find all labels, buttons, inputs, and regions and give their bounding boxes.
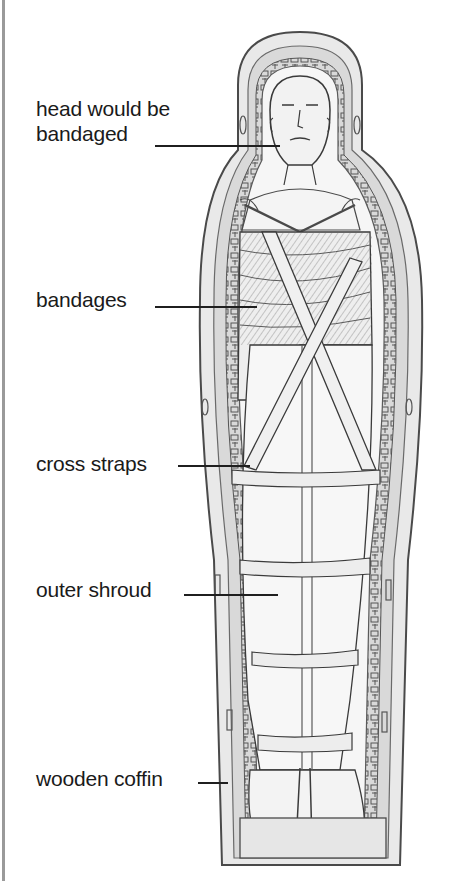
label-head-line1: head would be xyxy=(36,97,170,121)
leader-head xyxy=(155,145,280,147)
leader-wooden-coffin xyxy=(198,782,228,784)
leader-cross-straps xyxy=(178,465,250,467)
label-cross-straps: cross straps xyxy=(36,452,147,476)
leader-outer-shroud xyxy=(184,594,278,596)
leader-bandages xyxy=(155,306,257,308)
coffin-footboard xyxy=(240,818,386,858)
label-outer-shroud: outer shroud xyxy=(36,578,152,602)
label-wooden-coffin: wooden coffin xyxy=(36,767,163,791)
label-bandages: bandages xyxy=(36,288,127,312)
label-head-line2: bandaged xyxy=(36,122,128,146)
